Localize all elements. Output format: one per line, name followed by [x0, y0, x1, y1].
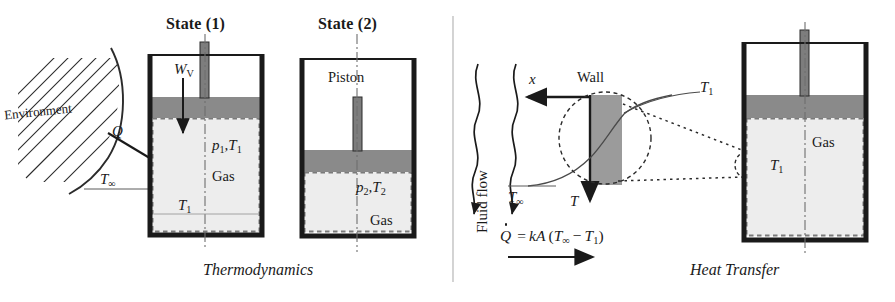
heat-transfer-caption: Heat Transfer: [690, 262, 779, 278]
wall-surface-temperature-label: T1: [700, 80, 713, 97]
magnifier-cone-upper: [623, 104, 747, 152]
volume-work-label: WV: [174, 62, 194, 79]
volume-work-subscript: V: [187, 68, 194, 79]
state2-pressure-symbol: p: [356, 179, 364, 195]
x-axis-label: x: [529, 72, 536, 87]
heat-transfer-wall-group: [508, 92, 763, 200]
state1-cylinder: [150, 34, 262, 250]
state2-heading: State (2): [318, 16, 377, 32]
figure-vector-layer: [0, 0, 895, 302]
equation-equals: =: [514, 227, 529, 244]
state2-temperature-symbol: ,T: [369, 179, 381, 195]
state1-gas-label: Gas: [212, 169, 235, 184]
equation-close-paren: ): [598, 227, 603, 244]
state2-piston-slab: [302, 150, 414, 172]
state2-piston-label: Piston: [328, 70, 364, 85]
state1-ambient-temperature-label: T∞: [100, 172, 116, 189]
heat-symbol-label: Q: [112, 124, 123, 139]
state1-pressure-symbol: p: [212, 137, 220, 153]
wall-slab: [591, 95, 622, 185]
state2-cylinder: [302, 34, 414, 252]
equation-surface-symbol: T: [585, 227, 594, 244]
surface-temperature-leader: [624, 92, 700, 113]
state1-inner-temperature-label: T1: [178, 198, 191, 215]
thermodynamics-heat-transfer-figure: State (1) State (2) Environment WV Q T∞ …: [0, 0, 895, 302]
right-ambient-subscript: ∞: [516, 196, 523, 207]
state1-temperature-subscript: 1: [237, 144, 242, 155]
cylinder-detail-temp-subscript: 1: [778, 164, 783, 175]
heat-transfer-equation: Q =kA (T∞−T1): [500, 228, 604, 246]
t-axis-label: T: [570, 194, 578, 209]
state1-heading: State (1): [166, 16, 225, 32]
state2-pressure-temperature-label: p2,T2: [356, 180, 386, 197]
equation-conductance: kA: [529, 227, 545, 244]
equation-qdot: Q: [500, 228, 511, 244]
state2-gas-label: Gas: [370, 213, 393, 228]
state2-temperature-subscript: 2: [381, 186, 386, 197]
wall-label: Wall: [577, 70, 604, 85]
state1-inner-temp-subscript: 1: [186, 204, 191, 215]
equation-ambient-subscript: ∞: [562, 235, 570, 246]
magnifier-cone-lower: [618, 177, 743, 181]
fluid-flow-label: Fluid flow: [475, 170, 490, 233]
right-cylinder-gas-label: Gas: [812, 135, 835, 150]
right-cylinder: [744, 22, 866, 256]
thermodynamics-caption: Thermodynamics: [203, 262, 313, 278]
cylinder-detail-temperature-label: T1: [770, 158, 783, 175]
state1-ambient-subscript: ∞: [108, 178, 115, 189]
state1-gas-region: [152, 118, 260, 232]
equation-minus: −: [570, 227, 585, 244]
state1-temperature-symbol: ,T: [225, 137, 237, 153]
wall-surface-temp-subscript: 1: [708, 86, 713, 97]
right-ambient-temperature-label: T∞: [508, 190, 524, 207]
volume-work-symbol: W: [174, 61, 187, 77]
state1-piston-slab: [150, 97, 262, 118]
state1-pressure-temperature-label: p1,T1: [212, 138, 242, 155]
